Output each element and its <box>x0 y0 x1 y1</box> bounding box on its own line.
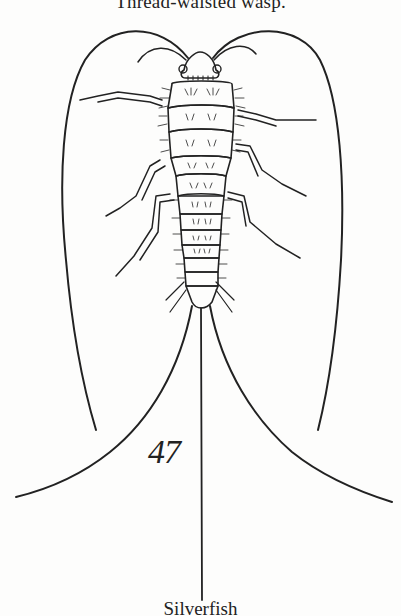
body-segments <box>158 81 245 308</box>
cerci <box>16 306 392 600</box>
figure-number: 47 <box>148 433 180 471</box>
book-page: Thread-waisted wasp. <box>0 0 401 616</box>
caption-silverfish: Silverfish <box>0 598 401 616</box>
silverfish-illustration <box>0 0 401 616</box>
